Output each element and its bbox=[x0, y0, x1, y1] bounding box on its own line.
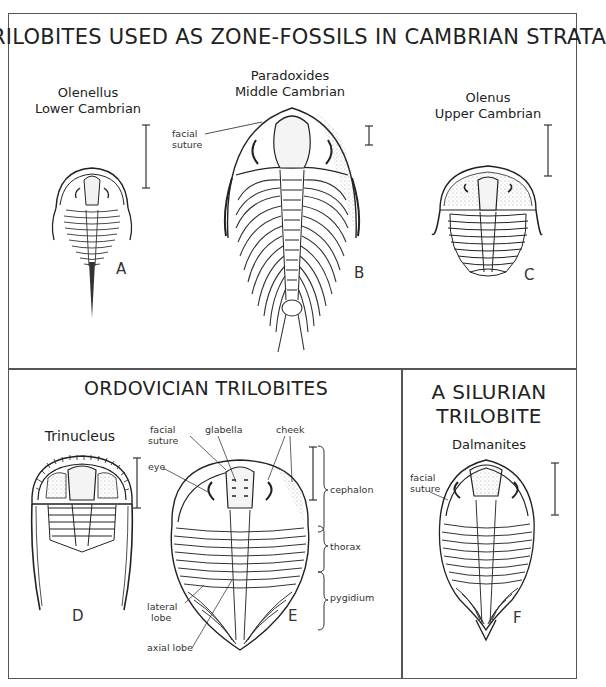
top-panel-title: TRILOBITES USED AS ZONE-FOSSILS IN CAMBR… bbox=[0, 25, 606, 49]
specimen-b-letter: B bbox=[354, 264, 364, 282]
specimen-d-letter: D bbox=[72, 607, 84, 625]
label-eye: eye bbox=[148, 461, 165, 472]
label-pygidium: pygidium bbox=[330, 592, 374, 603]
label-lobe: lobe bbox=[151, 612, 171, 623]
label-facial: facial bbox=[150, 424, 176, 435]
specimen-a-age: Lower Cambrian bbox=[35, 101, 141, 117]
specimen-b-label-facial: facial bbox=[172, 128, 198, 139]
specimen-b-label-suture: suture bbox=[172, 139, 202, 150]
silurian-title-line1: A SILURIAN bbox=[432, 380, 547, 404]
specimen-f-letter: F bbox=[513, 609, 522, 627]
specimen-f-label-suture: suture bbox=[410, 483, 440, 494]
specimen-c-genus: Olenus bbox=[465, 90, 510, 106]
silurian-title-line2: TRILOBITE bbox=[436, 404, 541, 428]
label-glabella: glabella bbox=[205, 424, 242, 435]
top-panel-frame bbox=[8, 13, 577, 370]
specimen-b-genus: Paradoxides bbox=[251, 68, 330, 84]
ordovician-panel-title: ORDOVICIAN TRILOBITES bbox=[84, 377, 328, 399]
label-cephalon: cephalon bbox=[330, 484, 373, 495]
specimen-a-genus: Olenellus bbox=[58, 85, 118, 101]
specimen-d-genus: Trinucleus bbox=[45, 428, 115, 444]
label-suture: suture bbox=[148, 435, 178, 446]
label-lateral: lateral bbox=[147, 601, 177, 612]
bottom-left-panel-frame bbox=[8, 368, 403, 679]
specimen-a-letter: A bbox=[116, 260, 126, 278]
specimen-b-age: Middle Cambrian bbox=[235, 84, 345, 100]
label-thorax: thorax bbox=[330, 541, 361, 552]
specimen-f-genus: Dalmanites bbox=[452, 437, 526, 453]
specimen-c-letter: C bbox=[524, 266, 534, 284]
specimen-f-label-facial: facial bbox=[410, 472, 436, 483]
label-cheek: cheek bbox=[276, 424, 304, 435]
specimen-e-letter: E bbox=[288, 607, 297, 625]
specimen-c-age: Upper Cambrian bbox=[435, 106, 542, 122]
label-axial-lobe: axial lobe bbox=[147, 642, 193, 653]
